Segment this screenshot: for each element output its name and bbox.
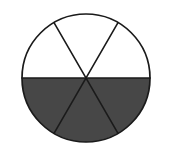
fraction-circle-figure bbox=[0, 0, 171, 152]
fraction-circle-diagram bbox=[0, 0, 171, 152]
